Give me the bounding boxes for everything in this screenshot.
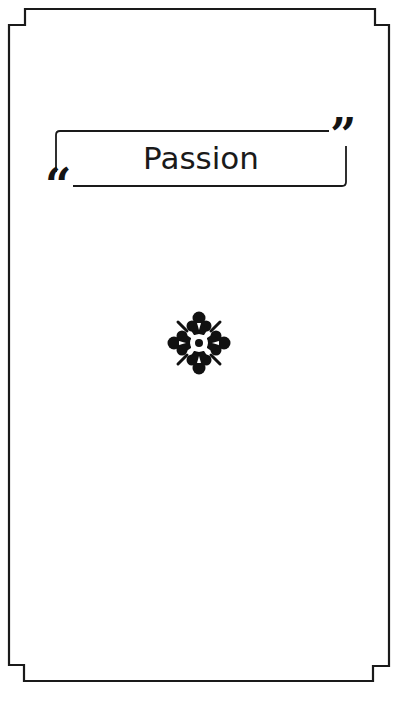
floral-ornament-icon <box>167 311 231 375</box>
card: ” “ Passion <box>0 0 401 701</box>
card-title: Passion <box>56 136 346 180</box>
